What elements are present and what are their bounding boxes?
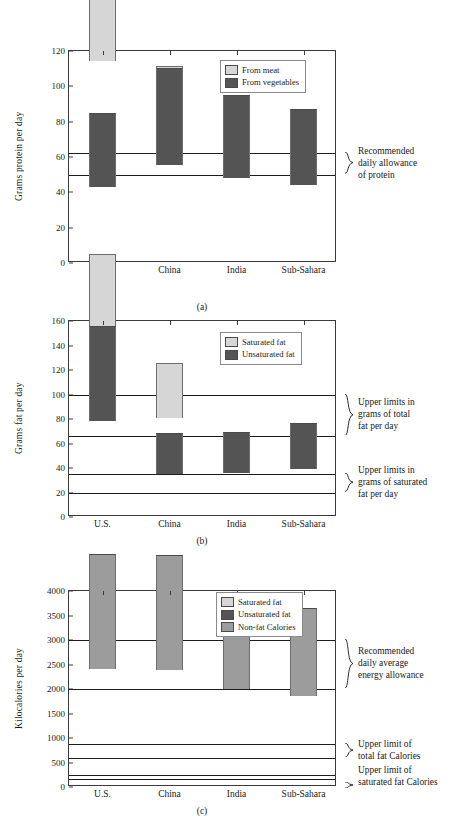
y-tick-mark (69, 787, 73, 788)
y-tick-label: 2500 (47, 660, 69, 669)
bar-segment (156, 68, 183, 164)
x-tick-mark (304, 591, 305, 595)
y-axis-label: Kilocalories per day (14, 590, 24, 786)
legend-label: From meat (242, 64, 279, 76)
brace-icon (344, 639, 354, 688)
bar-u-s- (89, 61, 116, 261)
x-tick-mark (237, 51, 238, 55)
y-tick-mark (69, 263, 73, 264)
y-tick-label: 3000 (47, 636, 69, 645)
legend-item: Saturated fat (225, 336, 295, 348)
x-tick-label-sub-sahara: Sub-Sahara (282, 261, 326, 275)
legend-a: From meatFrom vegetables (220, 60, 306, 93)
x-tick-label-china: China (158, 261, 181, 275)
x-tick-label-china: China (158, 515, 181, 529)
bar-sub-sahara (290, 678, 317, 785)
annotation-line: grams of saturated (358, 476, 427, 488)
y-tick-mark (69, 121, 73, 122)
legend-item: Unsaturated fat (225, 348, 295, 360)
y-tick-mark (69, 738, 73, 739)
legend-swatch-icon (221, 622, 234, 632)
y-tick-mark (69, 370, 73, 371)
annotation-line: fat per day (358, 488, 427, 500)
bar-india (223, 669, 250, 785)
annotation-line: Upper limit of (358, 764, 438, 776)
x-tick-mark (304, 321, 305, 325)
y-tick-label: 40 (56, 464, 69, 473)
bar-segment (290, 109, 317, 185)
legend-swatch-icon (225, 350, 238, 360)
y-tick-mark (69, 345, 73, 346)
legend-label: Saturated fat (238, 596, 282, 608)
brace-icon (344, 152, 354, 173)
y-tick-mark (69, 468, 73, 469)
y-tick-mark (69, 157, 73, 158)
annotation-line: saturated fat Calories (358, 776, 438, 788)
bar-segment (156, 433, 183, 474)
x-tick-label-sub-sahara: Sub-Sahara (282, 515, 326, 529)
x-tick-mark (103, 591, 104, 595)
x-tick-mark (103, 51, 104, 55)
annotation-line: total fat Calories (358, 750, 420, 762)
y-tick-label: 2000 (47, 685, 69, 694)
legend-label: Non-fat Calories (238, 621, 296, 633)
annotation-text: Upper limits ingrams of saturatedfat per… (358, 464, 427, 500)
y-axis-label: Grams protein per day (14, 50, 24, 262)
legend-swatch-icon (221, 610, 234, 620)
annotation-line: fat per day (358, 420, 415, 432)
y-tick-mark (69, 192, 73, 193)
legend-swatch-icon (221, 597, 234, 607)
panel-caption-b: (b) (196, 536, 207, 546)
x-tick-mark (304, 51, 305, 55)
bar-china (156, 418, 183, 515)
bar-segment (223, 432, 250, 474)
y-tick-label: 120 (52, 366, 70, 375)
y-tick-mark (69, 51, 73, 52)
y-tick-mark (69, 419, 73, 420)
bar-segment (89, 113, 116, 187)
legend-c: Saturated fatUnsaturated fatNon-fat Calo… (216, 592, 303, 637)
bar-segment (156, 555, 183, 670)
bar-india (223, 460, 250, 515)
bar-china (156, 637, 183, 785)
bar-china (156, 115, 183, 261)
legend-b: Saturated fatUnsaturated fat (220, 332, 302, 365)
y-tick-label: 20 (56, 488, 69, 497)
annotation-line: Recommended (358, 645, 424, 657)
y-tick-mark (69, 713, 73, 714)
annotation-line: Upper limits in (358, 396, 415, 408)
annotation-line: energy allowance (358, 669, 424, 681)
legend-item: From vegetables (225, 76, 299, 88)
y-tick-label: 100 (52, 390, 70, 399)
y-tick-mark (69, 591, 73, 592)
legend-label: Unsaturated fat (242, 348, 295, 360)
y-axis-label: Grams fat per day (14, 320, 24, 516)
y-tick-label: 80 (56, 117, 69, 126)
bar-segment (223, 95, 250, 178)
x-tick-label-sub-sahara: Sub-Sahara (282, 785, 326, 799)
bar-u-s- (89, 337, 116, 515)
bar-segment (290, 423, 317, 469)
y-tick-label: 160 (52, 317, 70, 326)
y-tick-label: 100 (52, 82, 70, 91)
y-tick-label: 500 (52, 758, 70, 767)
y-tick-label: 120 (52, 47, 70, 56)
brace-icon (344, 394, 354, 436)
annotation-text: Upper limit oftotal fat Calories (358, 738, 420, 762)
y-tick-label: 140 (52, 341, 70, 350)
y-tick-label: 1500 (47, 709, 69, 718)
x-tick-label-china: China (158, 785, 181, 799)
y-tick-mark (69, 443, 73, 444)
annotation-line: Upper limit of (358, 738, 420, 750)
chart-panel-b: Grams fat per day020406080100120140160U.… (0, 300, 475, 556)
brace-icon (344, 774, 354, 780)
x-tick-label-india: India (227, 261, 247, 275)
x-tick-label-india: India (227, 515, 247, 529)
x-tick-mark (103, 321, 104, 325)
x-tick-mark (170, 321, 171, 325)
legend-label: Unsaturated fat (238, 608, 291, 620)
y-tick-label: 20 (56, 223, 69, 232)
chart-panel-c: Kilocalories per day05001000150020002500… (0, 570, 475, 826)
y-tick-mark (69, 321, 73, 322)
legend-swatch-icon (225, 65, 238, 75)
